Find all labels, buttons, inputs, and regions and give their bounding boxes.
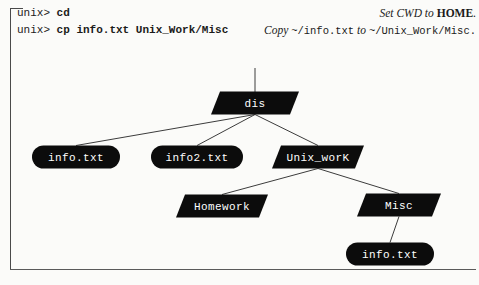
- node-label: Unix_worK: [286, 152, 349, 164]
- edge-unix-work-to-misc: [318, 169, 399, 194]
- tree-node-info-txt-1: info.txt: [32, 146, 120, 169]
- node-label: Homework: [194, 201, 250, 213]
- tree-node-misc: Misc: [357, 194, 441, 217]
- figure-page: unix> cdunix> cp info.txt Unix_Work/Misc…: [0, 0, 479, 285]
- filesystem-tree: disinfo.txtinfo2.txtUnix_worKHomeworkMis…: [0, 0, 479, 285]
- node-label: Misc: [385, 200, 413, 212]
- edge-dis-to-unix-work: [255, 115, 318, 146]
- tree-node-info2-txt: info2.txt: [151, 146, 243, 169]
- node-label: dis: [244, 98, 265, 110]
- node-label: info.txt: [362, 249, 418, 261]
- edge-unix-work-to-homework: [222, 169, 318, 195]
- edge-misc-to-info-txt-2: [390, 217, 399, 243]
- tree-node-info-txt-2: info.txt: [346, 243, 434, 266]
- edge-dis-to-info-txt-1: [76, 115, 255, 146]
- tree-node-unix-work: Unix_worK: [272, 146, 364, 169]
- node-label: info.txt: [48, 152, 104, 164]
- tree-node-dis: dis: [211, 92, 299, 115]
- tree-node-homework: Homework: [176, 195, 268, 218]
- node-label: info2.txt: [165, 152, 228, 164]
